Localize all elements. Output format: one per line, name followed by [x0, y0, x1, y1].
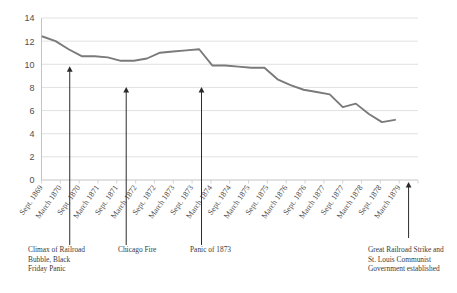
y-tick-label: 2 — [29, 152, 34, 162]
series-line — [43, 37, 396, 123]
annot-4-text-line: Government established — [368, 264, 440, 273]
y-tick-label: 8 — [29, 83, 34, 93]
annotation-labels: Climax of RailroadBubble, BlackFriday Pa… — [28, 245, 444, 273]
annot-1-text-line: Bubble, Black — [28, 255, 71, 264]
chart-canvas: 02468101214 Sept. 1869March 1870Sept. 18… — [0, 0, 457, 293]
gridlines — [42, 18, 419, 180]
x-axis-tick-labels: Sept. 1869March 1870Sept. 1870March 1871… — [18, 183, 403, 220]
annotation-arrow-head — [67, 66, 73, 72]
y-axis-tick-labels: 02468101214 — [24, 13, 34, 185]
annot-1-text-line: Climax of Railroad — [28, 245, 85, 254]
annotation-arrow-head — [199, 87, 205, 93]
annot-3-text-line: Panic of 1873 — [190, 245, 231, 254]
y-tick-label: 12 — [24, 37, 34, 47]
annot-1-text-line: Friday Panic — [28, 264, 66, 273]
y-tick-label: 4 — [29, 129, 34, 139]
y-tick-label: 10 — [24, 60, 34, 70]
annot-4-text-line: Great Railroad Strike and — [368, 245, 444, 254]
data-series-line — [43, 37, 396, 123]
y-tick-label: 6 — [29, 106, 34, 116]
chart-figure: 02468101214 Sept. 1869March 1870Sept. 18… — [0, 0, 457, 293]
annotation-arrows — [67, 66, 412, 245]
annotation-arrow-head — [406, 182, 412, 188]
x-axis-tick-marks — [42, 180, 419, 184]
annot-2-text-line: Chicago Fire — [118, 245, 157, 254]
y-tick-label: 14 — [24, 13, 34, 23]
annot-4-text-line: St. Louis Communist — [368, 255, 432, 264]
y-tick-label: 0 — [29, 175, 34, 185]
annotation-arrow-head — [123, 87, 129, 93]
